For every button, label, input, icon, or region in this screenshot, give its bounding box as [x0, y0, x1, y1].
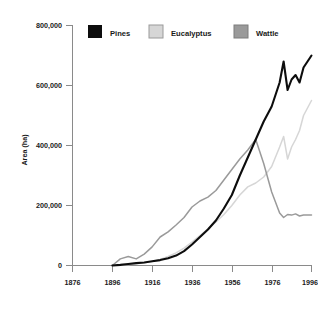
chart-legend: Pines Eucalyptus Wattle: [88, 25, 279, 38]
y-tick-label-600000: 600,000: [36, 81, 62, 90]
series-line-pines: [112, 56, 311, 266]
y-tick-label-400000: 400,000: [36, 141, 62, 150]
series-line-eucalyptus: [112, 101, 311, 266]
legend-label-wattle: Wattle: [256, 29, 279, 38]
x-tick-label-1876: 1876: [65, 278, 81, 287]
x-axis-ticks: [73, 266, 312, 273]
chart-canvas: 800,000 600,000 400,000 200,000 0 1876 1…: [0, 0, 318, 310]
y-tick-label-200000: 200,000: [36, 201, 62, 210]
legend-label-pines: Pines: [110, 29, 130, 38]
y-axis-ticks: [66, 26, 73, 266]
x-tick-label-1976: 1976: [265, 278, 281, 287]
x-tick-label-1916: 1916: [145, 278, 161, 287]
y-axis-title: Area (ha): [20, 134, 29, 166]
legend-swatch-wattle: [234, 25, 248, 38]
legend-label-eucalyptus: Eucalyptus: [171, 29, 212, 38]
x-tick-label-1956: 1956: [225, 278, 241, 287]
series-layer: [112, 56, 311, 266]
x-tick-label-1896: 1896: [105, 278, 121, 287]
x-tick-label-1936: 1936: [185, 278, 201, 287]
legend-swatch-eucalyptus: [149, 25, 163, 38]
series-line-wattle: [112, 140, 311, 266]
x-tick-label-1996: 1996: [302, 278, 318, 287]
legend-swatch-pines: [88, 25, 102, 38]
forestry-area-line-chart: 800,000 600,000 400,000 200,000 0 1876 1…: [0, 0, 318, 310]
y-tick-label-800000: 800,000: [36, 21, 62, 30]
y-tick-label-0: 0: [58, 261, 62, 270]
